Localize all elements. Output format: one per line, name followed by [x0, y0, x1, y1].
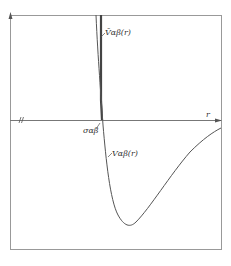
plot-frame: [11, 16, 222, 250]
r-axis-label: r: [206, 111, 210, 119]
potential-diagram: [0, 0, 231, 266]
sigma-label: σαβ: [83, 127, 99, 135]
x-axis-arrow-icon: [215, 119, 222, 123]
vbar-label: V̄αβ(r): [105, 29, 131, 37]
v-label: Vαβ(r): [112, 150, 138, 158]
